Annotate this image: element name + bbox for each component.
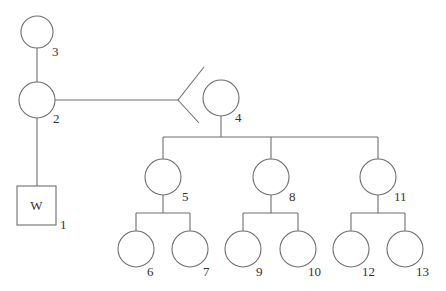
circle-node-4 bbox=[203, 80, 239, 116]
box-inner-label: W bbox=[30, 198, 43, 213]
node-11: 11 bbox=[360, 159, 407, 204]
node-label-2: 2 bbox=[53, 111, 60, 126]
circle-node-2 bbox=[19, 82, 55, 118]
node-9: 9 bbox=[225, 231, 263, 279]
node-label-12: 12 bbox=[362, 264, 375, 279]
node-label-8: 8 bbox=[289, 189, 296, 204]
circle-node-9 bbox=[225, 231, 261, 267]
node-10: 10 bbox=[280, 231, 321, 279]
node-13: 13 bbox=[387, 231, 429, 279]
node-5: 5 bbox=[145, 159, 189, 204]
node-3: 3 bbox=[21, 16, 59, 59]
node-label-6: 6 bbox=[147, 264, 154, 279]
node-label-11: 11 bbox=[394, 189, 407, 204]
circle-node-12 bbox=[333, 231, 369, 267]
node-label-7: 7 bbox=[203, 264, 210, 279]
node-4: 4 bbox=[203, 80, 242, 125]
node-1: W 1 bbox=[17, 186, 67, 232]
circle-node-13 bbox=[387, 231, 423, 267]
node-label-1: 1 bbox=[60, 217, 67, 232]
node-label-13: 13 bbox=[416, 264, 429, 279]
connectors bbox=[37, 48, 405, 231]
fork-arm-lower bbox=[178, 100, 199, 123]
node-label-4: 4 bbox=[235, 110, 242, 125]
node-12: 12 bbox=[333, 231, 375, 279]
circle-node-10 bbox=[280, 231, 316, 267]
node-6: 6 bbox=[118, 231, 154, 279]
circle-node-7 bbox=[172, 231, 208, 267]
node-label-9: 9 bbox=[256, 264, 263, 279]
fork-arm-upper bbox=[178, 67, 204, 100]
circle-node-8 bbox=[253, 159, 289, 195]
node-label-10: 10 bbox=[308, 264, 321, 279]
circle-node-3 bbox=[21, 16, 53, 48]
node-7: 7 bbox=[172, 231, 210, 279]
family-tree-diagram: 3 2 W 1 4 5 8 11 6 7 9 10 bbox=[0, 0, 446, 291]
node-8: 8 bbox=[253, 159, 296, 204]
node-label-5: 5 bbox=[182, 189, 189, 204]
circle-node-11 bbox=[360, 159, 396, 195]
node-label-3: 3 bbox=[52, 44, 59, 59]
circle-node-5 bbox=[145, 159, 181, 195]
circle-node-6 bbox=[118, 231, 154, 267]
node-2: 2 bbox=[19, 82, 60, 126]
